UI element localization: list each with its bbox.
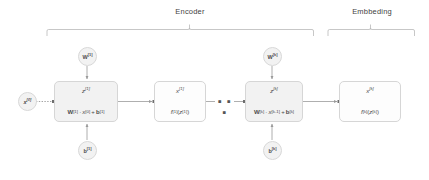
linear-block-1: z[1] W[1] · x[0] + b[1] — [54, 81, 118, 122]
activation-block-k-output: x[k] — [340, 82, 400, 102]
weight-node-k: W[k] — [263, 47, 282, 66]
lbk-b: b — [286, 109, 290, 115]
lbk-output-sup: [k] — [273, 86, 278, 91]
input-node: x[0] — [18, 92, 37, 111]
weight-node-k-sup: [k] — [273, 52, 278, 57]
weight-node-1: W[1] — [78, 47, 97, 66]
activation-block-1-output: x[1] — [155, 82, 205, 102]
linear-block-1-output: z[1] — [55, 82, 117, 102]
linear-block-k: z[k] W[k] · x[k-1] + b[k] — [245, 81, 303, 122]
linear-block-k-formula: W[k] · x[k-1] + b[k] — [246, 102, 302, 122]
input-node-sup: [0] — [27, 97, 32, 102]
activation-block-1-formula: f[1](z[1]) — [155, 102, 205, 122]
linear-block-1-formula: W[1] · x[0] + b[1] — [55, 102, 117, 122]
bias-node-k: b[k] — [263, 141, 282, 160]
linear-block-1-output-sup: [1] — [85, 86, 90, 91]
activation-block-1: x[1] f[1](z[1]) — [154, 81, 206, 122]
activation-block-k-formula: f[k](z[k]) — [340, 102, 400, 122]
embedding-brace — [328, 28, 415, 36]
lbk-w: W — [254, 109, 260, 115]
activation-block-k: x[k] f[k](z[k]) — [339, 81, 401, 122]
bias-node-1-sup: [1] — [87, 146, 92, 151]
encoder-architecture-diagram: Encoder Embbeding — [0, 0, 429, 180]
ab1-output-sup: [1] — [179, 86, 184, 91]
weight-node-1-sup: [1] — [88, 52, 93, 57]
bias-node-1: b[1] — [78, 141, 97, 160]
encoder-brace — [47, 28, 314, 36]
abk-output-sup: [k] — [369, 86, 374, 91]
linear-block-k-output: z[k] — [246, 82, 302, 102]
ellipsis-between-layers: ▪ ▪ ▪ — [215, 96, 235, 118]
bias-node-k-sup: [k] — [272, 146, 277, 151]
